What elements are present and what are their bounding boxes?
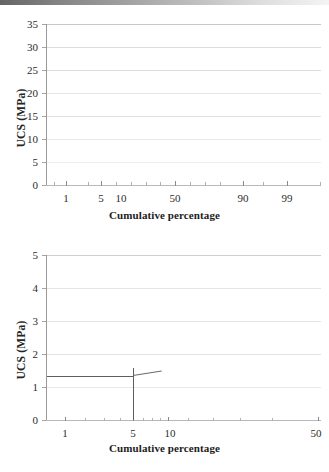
gridline (46, 288, 321, 289)
chart-top-ucs-cumulative-percentage: UCS (MPa) 35 30 25 20 15 10 5 0 (0, 6, 329, 238)
x-tick-label: 50 (311, 427, 322, 439)
y-tick-label: 0 (8, 179, 38, 191)
x-tick-label: 1 (63, 192, 69, 204)
x-tick-label: 5 (130, 427, 136, 439)
x-tick-label: 50 (170, 192, 181, 204)
gridline (46, 70, 321, 71)
gridline (46, 255, 321, 256)
x-axis-tick (143, 418, 144, 421)
x-axis-tick (220, 182, 221, 186)
y-axis-tick (42, 420, 46, 421)
x-axis-tick (213, 418, 214, 421)
gridline (46, 139, 321, 140)
x-axis-tick-major (101, 181, 102, 186)
x-axis-tick (116, 182, 117, 186)
gridline (46, 24, 321, 25)
x-axis-tick-major (66, 181, 67, 186)
y-axis-tick (42, 24, 46, 25)
x-tick-label: 1 (62, 427, 68, 439)
x-axis-tick-major (243, 181, 244, 186)
y-tick-label: 20 (8, 87, 38, 99)
y-tick-label: 30 (8, 41, 38, 53)
x-axis-line (46, 420, 321, 421)
x-axis-title: Cumulative percentage (0, 442, 329, 454)
gridline (46, 93, 321, 94)
y-tick-label: 15 (8, 110, 38, 122)
y-axis-tick (42, 162, 46, 163)
y-axis-tick (42, 70, 46, 71)
x-axis-tick (160, 418, 161, 421)
gridline (46, 116, 321, 117)
y-tick-label: 35 (8, 18, 38, 30)
gridline (46, 47, 321, 48)
y-axis-tick (42, 387, 46, 388)
y-tick-label: 3 (8, 315, 38, 327)
x-axis-tick (320, 182, 321, 186)
y-tick-label: 1 (8, 381, 38, 393)
x-axis-tick (272, 418, 273, 421)
x-axis-tick (240, 418, 241, 421)
gridline (46, 387, 321, 388)
gridline (46, 354, 321, 355)
y-tick-label: 0 (8, 414, 38, 426)
x-axis-tick (120, 418, 121, 421)
x-axis-tick-major (318, 417, 319, 421)
scan-edge-artifact (0, 0, 329, 5)
x-axis-tick-major (175, 181, 176, 186)
y-tick-label: 5 (8, 249, 38, 261)
x-axis-tick (146, 182, 147, 186)
y-axis-tick (42, 47, 46, 48)
y-tick-label: 25 (8, 64, 38, 76)
data-series-line (47, 376, 133, 377)
y-axis-tick (42, 288, 46, 289)
x-tick-label: 10 (165, 427, 176, 439)
x-axis-tick (263, 182, 264, 186)
x-axis-tick (188, 418, 189, 421)
x-axis-tick (54, 182, 55, 186)
x-axis-tick-major (287, 181, 288, 186)
x-axis-tick (85, 418, 86, 421)
x-axis-tick (131, 182, 132, 186)
y-axis-tick (42, 185, 46, 186)
y-axis-line (46, 255, 47, 421)
y-tick-label: 2 (8, 348, 38, 360)
x-axis-title: Cumulative percentage (0, 209, 329, 221)
x-axis-tick (152, 418, 153, 421)
x-axis-tick (160, 182, 161, 186)
y-tick-label: 4 (8, 282, 38, 294)
y-axis-tick (42, 354, 46, 355)
x-axis-tick (88, 182, 89, 186)
y-tick-label: 5 (8, 156, 38, 168)
x-tick-label: 5 (98, 192, 104, 204)
y-axis-tick (42, 139, 46, 140)
error-bar (133, 368, 134, 420)
x-tick-label: 99 (282, 192, 293, 204)
plot-area-top: UCS (MPa) 35 30 25 20 15 10 5 0 (0, 6, 329, 238)
chart-bottom-ucs-cumulative-percentage: UCS (MPa) 5 4 3 2 1 0 (0, 240, 329, 472)
data-series-slope (133, 370, 162, 376)
plot-area-bottom: UCS (MPa) 5 4 3 2 1 0 (0, 240, 329, 472)
gridline (46, 162, 321, 163)
y-axis-tick (42, 93, 46, 94)
gridline (46, 321, 321, 322)
x-axis-tick (190, 182, 191, 186)
x-tick-label: 90 (238, 192, 249, 204)
y-axis-tick (42, 321, 46, 322)
x-axis-tick-major (168, 417, 169, 421)
y-axis-tick (42, 255, 46, 256)
x-axis-tick (205, 182, 206, 186)
x-tick-label: 10 (116, 192, 127, 204)
x-axis-tick (104, 418, 105, 421)
y-axis-tick (42, 116, 46, 117)
x-axis-tick-major (65, 417, 66, 421)
y-axis-line (46, 24, 47, 186)
y-tick-label: 10 (8, 133, 38, 145)
